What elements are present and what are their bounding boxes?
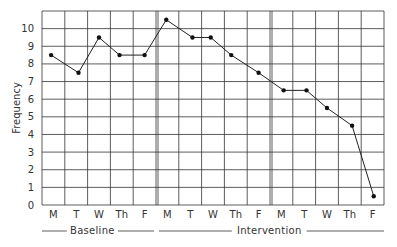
data-point bbox=[281, 88, 285, 92]
y-tick-label: 2 bbox=[28, 164, 34, 175]
y-tick-label: 10 bbox=[21, 23, 34, 34]
x-tick-label: T bbox=[72, 209, 80, 220]
data-point bbox=[49, 53, 53, 57]
y-tick-label: 7 bbox=[28, 76, 34, 87]
y-tick-label: 8 bbox=[28, 58, 34, 69]
data-point bbox=[372, 194, 376, 198]
frequency-line-chart: 012345678910 MTWThFMTWThFMTWThF Frequenc… bbox=[0, 0, 397, 247]
phase-label-baseline: Baseline bbox=[70, 225, 115, 236]
y-tick-label: 3 bbox=[28, 147, 34, 158]
x-tick-label: F bbox=[142, 209, 148, 220]
y-tick-label: 0 bbox=[28, 200, 34, 211]
phase-label-intervention: Intervention bbox=[237, 225, 302, 236]
x-tick-label: W bbox=[208, 209, 218, 220]
x-tick-label: T bbox=[186, 209, 194, 220]
data-point bbox=[350, 123, 354, 127]
x-tick-label: F bbox=[370, 209, 376, 220]
x-tick-label: M bbox=[163, 209, 172, 220]
phase-labels: BaselineIntervention bbox=[42, 225, 384, 236]
y-tick-label: 4 bbox=[28, 129, 34, 140]
x-tick-label: M bbox=[277, 209, 286, 220]
data-point bbox=[117, 53, 121, 57]
data-point bbox=[97, 35, 101, 39]
y-axis-ticks: 012345678910 bbox=[21, 23, 34, 210]
x-tick-label: Th bbox=[229, 209, 242, 220]
data-point bbox=[209, 35, 213, 39]
chart-grid bbox=[42, 11, 384, 205]
data-point bbox=[76, 71, 80, 75]
y-tick-label: 6 bbox=[28, 94, 34, 105]
x-tick-label: W bbox=[322, 209, 332, 220]
data-point bbox=[325, 106, 329, 110]
x-tick-label: W bbox=[94, 209, 104, 220]
x-tick-label: T bbox=[300, 209, 308, 220]
data-point bbox=[190, 35, 194, 39]
data-point bbox=[142, 53, 146, 57]
data-point bbox=[256, 71, 260, 75]
data-series bbox=[49, 18, 376, 199]
y-tick-label: 1 bbox=[28, 182, 34, 193]
y-axis-label: Frequency bbox=[11, 82, 22, 134]
data-point bbox=[229, 53, 233, 57]
data-point bbox=[304, 88, 308, 92]
x-tick-label: Th bbox=[115, 209, 128, 220]
y-tick-label: 9 bbox=[28, 41, 34, 52]
phase-dividers bbox=[158, 11, 272, 205]
x-tick-label: F bbox=[256, 209, 262, 220]
data-point bbox=[164, 18, 168, 22]
x-axis-day-labels: MTWThFMTWThFMTWThF bbox=[49, 209, 376, 220]
y-tick-label: 5 bbox=[28, 111, 34, 122]
x-tick-label: Th bbox=[343, 209, 356, 220]
x-tick-label: M bbox=[49, 209, 58, 220]
